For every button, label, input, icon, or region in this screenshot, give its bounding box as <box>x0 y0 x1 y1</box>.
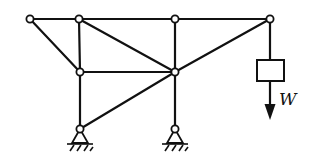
joint-A <box>26 15 33 22</box>
hanging-load: W <box>257 19 298 120</box>
member-BF <box>79 19 175 72</box>
ground-hatch <box>77 145 81 151</box>
member-AE <box>30 19 80 72</box>
joint-G <box>76 125 83 132</box>
member-GF <box>80 72 175 129</box>
arrow-down-icon <box>265 104 276 120</box>
truss-joints <box>26 15 273 132</box>
member-BE <box>79 19 80 72</box>
joint-H <box>171 125 178 132</box>
load-label: W <box>279 89 298 109</box>
joint-D <box>266 15 273 22</box>
ground-hatch <box>84 145 88 151</box>
ground-hatch <box>179 145 183 151</box>
member-DF <box>175 19 270 72</box>
truss-diagram: W <box>0 0 317 161</box>
ground-hatch <box>185 147 188 151</box>
joint-E <box>76 68 83 75</box>
joint-B <box>75 15 82 22</box>
joint-F <box>171 68 178 75</box>
ground-hatch <box>70 145 74 151</box>
ground-hatch <box>165 145 169 151</box>
ground-hatch <box>172 145 176 151</box>
truss-members <box>30 19 270 129</box>
joint-C <box>171 15 178 22</box>
weight-box <box>257 60 284 81</box>
ground-hatch <box>90 147 93 151</box>
